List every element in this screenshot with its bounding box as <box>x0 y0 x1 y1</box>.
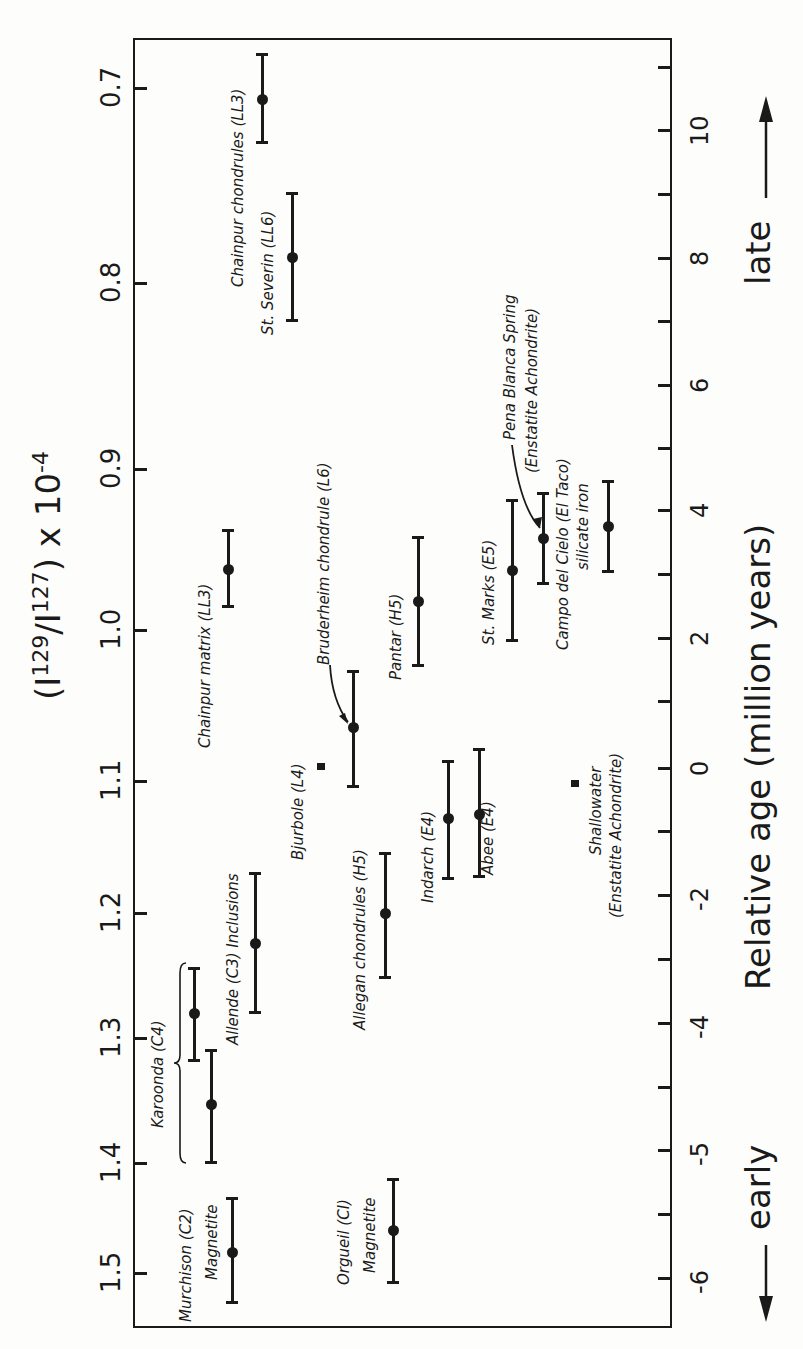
error-bar-cap <box>222 529 234 532</box>
data-point-marker <box>507 565 518 576</box>
error-bar-cap <box>602 480 614 483</box>
error-bar-cap <box>286 192 298 195</box>
data-point-label: St. Severin (LL6) <box>260 211 277 335</box>
data-point-label: silicate iron <box>575 483 592 570</box>
error-bar-cap <box>286 319 298 322</box>
data-point-marker <box>443 813 454 824</box>
data-point-marker <box>287 252 298 263</box>
error-bar-cap <box>537 582 549 585</box>
data-point-marker <box>227 1247 238 1258</box>
error-bar-cap <box>387 1281 399 1284</box>
late-arrow-icon <box>759 96 773 198</box>
data-point-marker-square <box>317 763 325 770</box>
error-bar-cap <box>412 536 424 539</box>
data-point-marker <box>206 1099 217 1110</box>
data-point-marker <box>223 564 234 575</box>
error-bar-cap <box>226 1301 238 1304</box>
error-bar-cap <box>379 976 391 979</box>
data-point-label: Chainpur chondrules (LL3) <box>230 89 247 287</box>
data-point-marker <box>189 1008 200 1019</box>
error-bar-cap <box>473 748 485 751</box>
data-point-marker <box>603 521 614 532</box>
error-bar-cap <box>506 499 518 502</box>
error-bar-cap <box>537 492 549 495</box>
group-label: Karoonda (C4) <box>150 1020 167 1128</box>
data-point-label: Pantar (H5) <box>388 594 405 680</box>
data-point-label: Shallowater <box>588 767 605 855</box>
pointer-arrow <box>330 665 348 722</box>
error-bar-cap <box>249 872 261 875</box>
data-point-label: Allende (C3) Inclusions <box>225 873 242 1045</box>
data-point-marker-square <box>571 780 579 787</box>
data-point-marker <box>413 596 424 607</box>
error-bar-cap <box>347 670 359 673</box>
error-bar-cap <box>249 1011 261 1014</box>
error-bar-cap <box>188 967 200 970</box>
error-bar-cap <box>256 53 268 56</box>
error-bar-cap <box>226 1197 238 1200</box>
data-point-label: Orgueil (CI) <box>336 1199 353 1285</box>
error-bar-cap <box>412 664 424 667</box>
data-point-marker <box>348 722 359 733</box>
error-bar-cap <box>256 141 268 144</box>
error-bar-cap <box>379 852 391 855</box>
error-bar-cap <box>506 639 518 642</box>
data-point-label: Allegan chondrules (H5) <box>352 849 369 1030</box>
data-point-marker <box>257 94 268 105</box>
error-bar-cap <box>442 877 454 880</box>
data-point-marker <box>250 938 261 949</box>
data-point-label: Magnetite <box>204 1204 221 1280</box>
data-point-label: Campo del Cielo (El Taco) <box>555 458 572 650</box>
data-point-label: Pena Blanca Spring <box>502 294 519 440</box>
data-point-label: Bjurbole (L4) <box>290 763 307 860</box>
error-bar-cap <box>222 605 234 608</box>
data-point-label: Murchison (C2) <box>178 1208 195 1322</box>
error-bar-cap <box>473 875 485 878</box>
data-point-label: Magnetite <box>362 1197 379 1273</box>
data-point-label: Indarch (E4) <box>420 811 437 903</box>
data-point-label: Bruderheim chondrule (L6) <box>316 462 333 665</box>
data-point-label: Chainpur matrix (LL3) <box>197 584 214 748</box>
error-bar-cap <box>188 1059 200 1062</box>
data-point-label: St. Marks (E5) <box>481 540 498 645</box>
data-point-label: Abee (E4) <box>480 801 497 875</box>
data-point-label: (Enstatite Achondrite) <box>524 308 541 473</box>
data-point-marker <box>388 1225 399 1236</box>
data-point-label: (Enstatite Achondrite) <box>608 753 625 918</box>
data-point-marker <box>380 908 391 919</box>
error-bar-cap <box>205 1161 217 1164</box>
error-bar-cap <box>347 785 359 788</box>
error-bar-cap <box>205 1049 217 1052</box>
error-bar-cap <box>442 760 454 763</box>
brace-icon <box>174 963 186 1163</box>
error-bar-cap <box>387 1178 399 1181</box>
early-arrow-icon <box>759 1245 773 1322</box>
error-bar-cap <box>602 570 614 573</box>
data-point-marker <box>538 533 549 544</box>
